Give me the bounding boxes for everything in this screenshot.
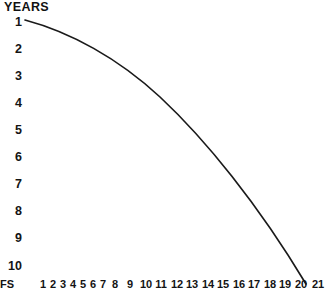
x-axis-tick-label: 8 [112, 278, 118, 290]
x-axis-tick-label: 20 [295, 278, 307, 290]
x-axis-label-group: FS 123456789101112131415161718192021 [0, 278, 325, 290]
x-axis-tick-label: 15 [217, 278, 229, 290]
x-axis-tick-label: 11 [155, 278, 167, 290]
x-axis-tick-label: 3 [60, 278, 66, 290]
x-axis-tick-label: 17 [248, 278, 260, 290]
x-axis-tick-label: 4 [70, 278, 76, 290]
x-axis-tick-label: 16 [233, 278, 245, 290]
x-axis-tick-label: 6 [90, 278, 96, 290]
plot-area [0, 0, 325, 290]
x-axis-tick-label: 1 [40, 278, 46, 290]
chart-screenshot: YEARS 12345678910 FS 1234567891011121314… [0, 0, 325, 290]
x-axis-tick-label: 12 [171, 278, 183, 290]
x-axis-tick-label: 19 [279, 278, 291, 290]
x-axis-tick-label: 10 [140, 278, 152, 290]
x-axis-tick-label: 5 [80, 278, 86, 290]
x-axis-tick-label: 2 [50, 278, 56, 290]
data-curve-line [25, 20, 306, 284]
x-axis-tick-label: 18 [264, 278, 276, 290]
x-axis-tick-label: 7 [100, 278, 106, 290]
x-axis-tick-label: 13 [186, 278, 198, 290]
x-axis-tick-label: 9 [127, 278, 133, 290]
x-axis-tick-label: 14 [202, 278, 214, 290]
x-axis-prefix-label: FS [0, 278, 14, 290]
x-axis-tick-label: 21 [312, 278, 324, 290]
